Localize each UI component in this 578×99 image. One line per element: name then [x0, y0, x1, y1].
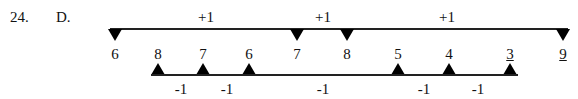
answer-choice: D.: [56, 10, 71, 25]
bottom-step-label: -1: [221, 82, 234, 97]
bottom-marker-label: 5: [394, 47, 402, 62]
down-triangle-marker-icon: [108, 29, 122, 41]
question-number: 24.: [10, 10, 29, 25]
bottom-marker-label: 7: [199, 47, 207, 62]
down-triangle-marker-icon: [556, 29, 570, 41]
top-marker-label: 8: [343, 47, 351, 62]
bottom-marker-label: 3: [506, 47, 514, 62]
bottom-number-line: [151, 74, 518, 76]
bottom-step-label: -1: [175, 82, 188, 97]
top-marker-label: 6: [111, 47, 119, 62]
top-marker-label: 7: [293, 47, 301, 62]
top-step-label: +1: [439, 10, 455, 25]
top-marker-label: 9: [559, 47, 567, 62]
down-triangle-marker-icon: [290, 29, 304, 41]
bottom-step-label: -1: [418, 82, 431, 97]
down-triangle-marker-icon: [340, 29, 354, 41]
top-step-label: +1: [315, 10, 331, 25]
bottom-step-label: -1: [317, 82, 330, 97]
bottom-marker-label: 6: [245, 47, 253, 62]
bottom-marker-label: 8: [154, 47, 162, 62]
top-number-line: [110, 28, 568, 30]
top-step-label: +1: [198, 10, 214, 25]
bottom-marker-label: 4: [445, 47, 453, 62]
bottom-step-label: -1: [472, 82, 485, 97]
